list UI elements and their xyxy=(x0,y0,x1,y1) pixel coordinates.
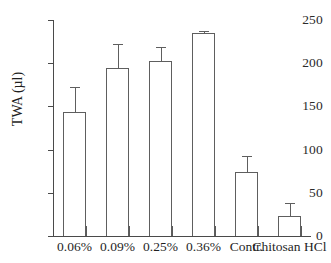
x-tick-0.25%-right xyxy=(172,226,173,236)
bar-0.25% xyxy=(149,61,172,236)
error-bar-cap-Contr. xyxy=(242,156,252,157)
bar-Chitosan HCl xyxy=(278,216,301,236)
bar-Contr. xyxy=(235,172,258,236)
bar-0.09% xyxy=(106,68,129,236)
error-bar-cap-0.06% xyxy=(70,87,80,88)
x-tick-0.09%-right xyxy=(129,226,130,236)
error-bar-stem-Chitosan HCl xyxy=(290,203,291,216)
bar-0.06% xyxy=(63,112,86,236)
error-bar-cap-Chitosan HCl xyxy=(285,203,295,204)
y-tick-label-100: 100 xyxy=(281,143,323,157)
y-tick-100 xyxy=(48,150,53,151)
x-tick-Chitosan HCl-right xyxy=(301,226,302,236)
y-tick-label-250: 250 xyxy=(281,13,323,27)
y-tick-label-150: 150 xyxy=(281,99,323,113)
x-tick-0.06%-right xyxy=(86,226,87,236)
error-bar-cap-0.36% xyxy=(199,31,209,32)
y-tick-label-50: 50 xyxy=(281,186,323,200)
y-tick-0 xyxy=(48,236,53,237)
error-bar-cap-0.09% xyxy=(113,44,123,45)
bar-0.36% xyxy=(192,33,215,236)
error-bar-stem-Contr. xyxy=(247,156,248,172)
error-bar-stem-0.06% xyxy=(75,87,76,113)
error-bar-stem-0.09% xyxy=(118,44,119,67)
x-tick-0.36%-right xyxy=(215,226,216,236)
x-axis-line xyxy=(53,236,311,237)
y-tick-250 xyxy=(48,20,53,21)
y-tick-50 xyxy=(48,193,53,194)
y-axis-line xyxy=(53,20,54,237)
y-axis-title: TWA (µl) xyxy=(11,29,25,169)
y-tick-150 xyxy=(48,106,53,107)
x-tick-label-Chitosan HCl: Chitosan HCl xyxy=(240,239,331,254)
x-tick-Contr.-right xyxy=(258,226,259,236)
y-tick-200 xyxy=(48,63,53,64)
error-bar-stem-0.25% xyxy=(161,47,162,61)
error-bar-cap-0.25% xyxy=(156,47,166,48)
y-tick-label-200: 200 xyxy=(281,56,323,70)
